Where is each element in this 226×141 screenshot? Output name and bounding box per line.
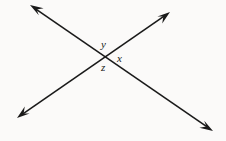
line-a	[36, 9, 207, 127]
line-a-group	[30, 5, 213, 131]
line-b-end-arrowhead-icon	[157, 12, 170, 24]
line-b	[23, 16, 164, 114]
angle-label-z: z	[101, 62, 105, 73]
line-b-group	[17, 12, 170, 118]
intersecting-lines-figure	[0, 0, 226, 141]
geometry-diagram: y x z	[0, 0, 226, 141]
line-b-start-arrowhead-icon	[17, 106, 30, 118]
angle-label-y: y	[101, 39, 106, 50]
angle-label-x: x	[117, 53, 122, 64]
